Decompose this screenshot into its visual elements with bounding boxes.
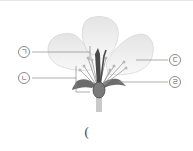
- label-digeut: ㄷ: [169, 54, 181, 66]
- stem: [96, 96, 102, 112]
- ovary: [93, 82, 105, 98]
- label-giyeok: ㄱ: [18, 46, 30, 58]
- sepal-left: [72, 79, 96, 90]
- label-nieun: ㄴ: [18, 72, 30, 84]
- answer-blank: (: [84, 125, 89, 140]
- label-rieul: ㄹ: [169, 76, 181, 88]
